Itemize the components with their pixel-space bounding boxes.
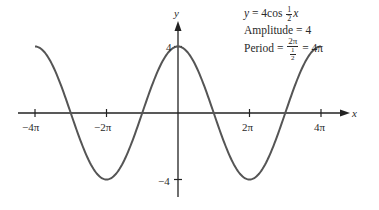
y-axis-arrow-icon [175,21,182,31]
equation-suffix: x [293,7,298,19]
x-tick-label: 2π [242,121,253,133]
period-denominator: 12 [287,47,298,62]
equation-prefix: = 4cos [249,7,285,19]
x-tick-label: 4π [314,121,325,133]
x-axis-arrow-icon [340,110,350,117]
amplitude-line: Amplitude = 4 [244,23,323,37]
period-line: Period = 2π 12 = 4π [244,37,323,62]
x-axis-label: x [352,107,357,119]
equation-annotation: y = 4cos 12x Amplitude = 4 Period = 2π 1… [244,6,323,62]
period-suffix: = 4π [302,42,323,54]
inner-denominator: 2 [290,55,296,62]
y-tick-label: 4 [166,41,172,53]
y-axis-label: y [174,7,179,19]
equation-line: y = 4cos 12x [244,6,323,23]
y-tick-label: −4 [158,175,170,187]
period-fraction: 2π 12 [287,37,298,62]
x-tick-label: −4π [22,121,39,133]
fraction-denominator: 2 [286,15,292,23]
period-prefix: Period = [244,42,283,54]
half-fraction: 12 [286,6,292,23]
x-tick-label: −2π [94,121,111,133]
